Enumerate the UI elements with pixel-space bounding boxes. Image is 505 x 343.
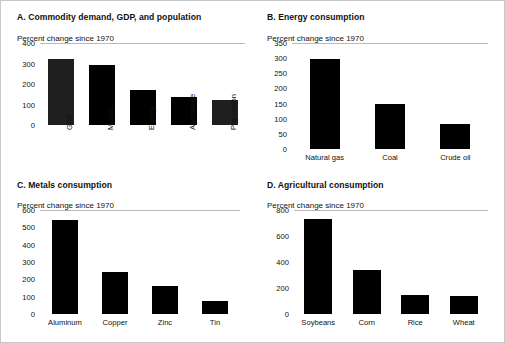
panel-c-ytick-300: 300	[9, 258, 35, 267]
panel-d-ytick-600: 600	[263, 232, 289, 241]
panel-a-baseline	[40, 43, 245, 44]
panel-b-ytick-150: 150	[261, 99, 287, 108]
bar-aluminum	[52, 220, 78, 314]
panel-d: D. Agricultural consumption Percent chan…	[259, 177, 501, 339]
bar-soybeans	[304, 219, 332, 314]
bar-wheat	[450, 296, 478, 314]
panel-d-ytick-800: 800	[263, 206, 289, 215]
panel-d-ytick-0: 0	[263, 310, 289, 319]
panel-c-xlabel-0: Aluminum	[40, 318, 90, 327]
panel-a-xlabel-4: Population	[229, 70, 238, 130]
panel-b-ytick-0: 0	[261, 145, 287, 154]
panel-d-baseline	[294, 210, 488, 211]
panel-b-xlabel-0: Natural gas	[292, 153, 357, 162]
bar-rice	[401, 295, 429, 314]
panel-a-xlabel-2: Energy	[147, 70, 156, 130]
panel-a-plot: 0100200300400GDPMetalsEnergyAgricultureP…	[40, 43, 245, 125]
panel-c-ytick-200: 200	[9, 275, 35, 284]
panel-b-xlabel-1: Coal	[357, 153, 422, 162]
panel-c-ytick-100: 100	[9, 292, 35, 301]
panel-b: B. Energy consumption Percent change sin…	[259, 7, 501, 173]
panel-b-ytick-250: 250	[261, 69, 287, 78]
panel-b-ytick-200: 200	[261, 84, 287, 93]
panel-c-baseline	[40, 210, 240, 211]
panel-d-xlabel-2: Rice	[391, 318, 440, 327]
panel-b-plot: 050100150200250300350Natural gasCoalCrud…	[292, 43, 488, 149]
panel-d-plot: 0200400600800SoybeansCornRiceWheat	[294, 210, 488, 314]
bar-zinc	[152, 286, 178, 314]
panel-c-xlabel-2: Zinc	[140, 318, 190, 327]
panel-d-xlabel-1: Corn	[343, 318, 392, 327]
panel-c-ytick-0: 0	[9, 310, 35, 319]
panel-a-ytick-200: 200	[9, 80, 35, 89]
panel-b-ytick-350: 350	[261, 39, 287, 48]
panel-b-baseline	[292, 43, 488, 44]
panel-b-ytick-100: 100	[261, 114, 287, 123]
panel-a-title: A. Commodity demand, GDP, and population	[17, 12, 201, 22]
panel-b-xlabel-2: Crude oil	[423, 153, 488, 162]
bar-corn	[353, 270, 381, 314]
panel-a-ytick-300: 300	[9, 59, 35, 68]
bar-tin	[202, 301, 228, 314]
panel-b-ytick-50: 50	[261, 129, 287, 138]
panel-c-ytick-600: 600	[9, 206, 35, 215]
panel-c: C. Metals consumption Percent change sin…	[9, 177, 253, 339]
panel-b-title: B. Energy consumption	[267, 12, 365, 22]
panel-d-title: D. Agricultural consumption	[267, 180, 384, 190]
panel-b-ytick-300: 300	[261, 54, 287, 63]
panel-c-plot: 0100200300400500600AluminumCopperZincTin	[40, 210, 240, 314]
panel-c-xlabel-1: Copper	[90, 318, 140, 327]
panel-d-xlabel-3: Wheat	[440, 318, 489, 327]
panel-c-title: C. Metals consumption	[17, 180, 112, 190]
panel-c-ytick-500: 500	[9, 223, 35, 232]
bar-copper	[102, 272, 128, 314]
panel-c-xlabel-3: Tin	[190, 318, 240, 327]
panel-c-ytick-400: 400	[9, 240, 35, 249]
bar-crude-oil	[440, 124, 470, 149]
figure-canvas: A. Commodity demand, GDP, and population…	[0, 0, 505, 343]
panel-a-ytick-100: 100	[9, 100, 35, 109]
panel-d-xlabel-0: Soybeans	[294, 318, 343, 327]
panel-a: A. Commodity demand, GDP, and population…	[9, 7, 253, 173]
panel-a-xlabel-1: Metals	[106, 70, 115, 130]
panel-a-ytick-0: 0	[9, 121, 35, 130]
panel-a-ytick-400: 400	[9, 39, 35, 48]
panel-a-xlabel-3: Agriculture	[188, 70, 197, 130]
panel-d-ytick-400: 400	[263, 258, 289, 267]
panel-a-xlabel-0: GDP	[65, 70, 74, 130]
panel-d-ytick-200: 200	[263, 284, 289, 293]
bar-natural-gas	[310, 59, 340, 149]
bar-coal	[375, 104, 405, 149]
